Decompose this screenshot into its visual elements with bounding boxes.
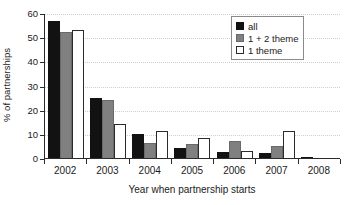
- bar-chart: % of partnerships 0102030405060 20022003…: [0, 0, 350, 205]
- y-tick-label: 50: [12, 33, 38, 43]
- bar: [186, 144, 198, 159]
- y-tick-label: 20: [12, 106, 38, 116]
- x-tick-mark: [171, 159, 172, 164]
- y-tick-label: 30: [12, 82, 38, 92]
- legend-label: 1 + 2 theme: [248, 33, 298, 44]
- x-tick-mark: [129, 159, 130, 164]
- x-tick-mark: [86, 159, 87, 164]
- x-tick-label: 2007: [255, 165, 299, 177]
- x-tick-label: 2006: [212, 165, 256, 177]
- bar-group: [45, 14, 87, 158]
- x-tick-label: 2003: [85, 165, 129, 177]
- y-tick-mark: [40, 38, 44, 39]
- bar: [114, 124, 126, 158]
- x-tick-label: 2005: [170, 165, 214, 177]
- x-tick-mark: [213, 159, 214, 164]
- bar: [271, 146, 283, 158]
- bar: [259, 153, 271, 158]
- x-tick-mark: [255, 159, 256, 164]
- bar: [132, 134, 144, 158]
- bar: [48, 21, 60, 158]
- legend-swatch-icon: [236, 34, 244, 42]
- bar: [72, 30, 84, 158]
- legend-entry: all: [236, 20, 298, 32]
- y-tick-label: 40: [12, 57, 38, 67]
- bar: [301, 157, 313, 158]
- x-tick-label: 2008: [297, 165, 341, 177]
- bar: [283, 131, 295, 158]
- y-tick-mark: [40, 62, 44, 63]
- bar: [90, 98, 102, 158]
- bar-group: [129, 14, 171, 158]
- y-tick-label: 0: [12, 154, 38, 164]
- x-tick-mark: [298, 159, 299, 164]
- legend-swatch-icon: [236, 22, 244, 30]
- bar-group: [87, 14, 129, 158]
- x-tick-label: 2002: [43, 165, 87, 177]
- bar: [144, 143, 156, 158]
- bar: [241, 151, 253, 158]
- bar: [102, 100, 114, 158]
- legend-entry: 1 theme: [236, 44, 298, 56]
- bar: [229, 141, 241, 158]
- bar: [174, 148, 186, 158]
- x-tick-mark: [44, 159, 45, 164]
- legend-label: all: [248, 21, 258, 32]
- x-tick-label: 2004: [128, 165, 172, 177]
- bar: [60, 32, 72, 158]
- legend-swatch-icon: [236, 46, 244, 54]
- bar: [217, 152, 229, 158]
- bar-group: [171, 14, 213, 158]
- y-tick-mark: [40, 14, 44, 15]
- y-tick-mark: [40, 135, 44, 136]
- bar: [156, 131, 168, 158]
- bar: [198, 138, 210, 158]
- x-axis-title: Year when partnership starts: [44, 184, 340, 196]
- y-tick-label: 60: [12, 9, 38, 19]
- legend-label: 1 theme: [248, 45, 282, 56]
- y-tick-label: 10: [12, 130, 38, 140]
- chart-legend: all1 + 2 theme1 theme: [231, 16, 304, 60]
- y-tick-mark: [40, 111, 44, 112]
- y-tick-mark: [40, 87, 44, 88]
- legend-entry: 1 + 2 theme: [236, 32, 298, 44]
- x-tick-mark: [340, 159, 341, 164]
